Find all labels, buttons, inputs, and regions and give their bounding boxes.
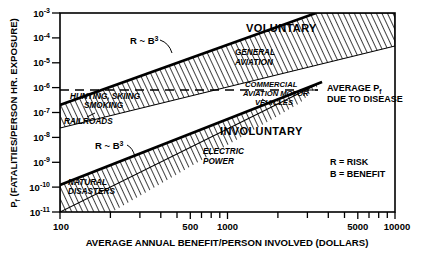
rb3-lower-label: R ~ B3 <box>95 140 124 152</box>
data-bands <box>60 13 395 212</box>
y-tick-label: 10-5 <box>33 57 50 69</box>
x-tick-label: 100 <box>53 221 69 232</box>
disease-label-line1: AVERAGE Pf <box>327 83 382 95</box>
rb3-upper-leader <box>160 40 172 53</box>
electric-label: ELECTRIC <box>203 147 245 156</box>
natural-label: NATURAL <box>68 178 107 187</box>
vehicles-label: VEHICLES <box>255 98 293 107</box>
smoking-label: SMOKING <box>84 101 124 110</box>
risk-benefit-chart-figure: 10-3 10-4 10-5 10-6 10-7 10-8 10-9 10-10… <box>0 0 427 254</box>
commercial-label: COMMERCIAL <box>245 80 298 89</box>
legend-benefit: B = BENEFIT <box>330 169 386 179</box>
y-axis-title-text: Pf (FATALITIES/PERSON HR. EXPOSURE) <box>8 18 21 208</box>
railroads-label: RAILROADS <box>64 117 113 126</box>
aviation-label: AVIATION <box>234 58 274 67</box>
y-tick-label: 10-11 <box>30 206 50 218</box>
x-tick-label: 1000 <box>217 221 238 232</box>
y-tick-label: 10-10 <box>29 181 50 193</box>
y-tick-label: 10-9 <box>33 156 50 168</box>
rb3-upper-label: R ~ B3 <box>130 35 159 47</box>
disasters-label: DISASTERS <box>68 187 115 196</box>
y-axis-ticks <box>52 13 60 212</box>
y-axis-title: Pf (FATALITIES/PERSON HR. EXPOSURE) <box>8 18 21 208</box>
hunting-skiing-label: HUNTING, SKIING <box>70 92 141 101</box>
x-axis-title: AVERAGE ANNUAL BENEFIT/PERSON INVOLVED (… <box>86 237 369 248</box>
y-tick-label: 10-4 <box>33 32 50 44</box>
power-label: POWER <box>203 157 234 166</box>
general-label: GENERAL <box>235 48 275 57</box>
y-tick-label: 10-8 <box>33 131 50 143</box>
chart-svg: 10-3 10-4 10-5 10-6 10-7 10-8 10-9 10-10… <box>0 0 427 254</box>
y-tick-label: 10-7 <box>33 107 50 119</box>
x-axis-ticks <box>60 212 395 219</box>
legend-risk: R = RISK <box>330 157 369 167</box>
aviation-motor-label: AVIATION MOTOR <box>242 89 309 98</box>
voluntary-label: VOLUNTARY <box>246 22 317 34</box>
x-axis-tick-labels: 100 500 1000 5000 10000 <box>53 221 410 232</box>
y-tick-label: 10-3 <box>33 7 50 19</box>
y-tick-label: 10-6 <box>33 82 50 94</box>
x-tick-label: 500 <box>182 221 198 232</box>
voluntary-band <box>60 13 395 128</box>
x-tick-label: 5000 <box>347 221 368 232</box>
y-axis-tick-labels: 10-3 10-4 10-5 10-6 10-7 10-8 10-9 10-10… <box>29 7 50 218</box>
x-axis-title-text: AVERAGE ANNUAL BENEFIT/PERSON INVOLVED (… <box>86 237 369 248</box>
disease-label-line2: DUE TO DISEASE <box>327 94 403 104</box>
involuntary-label: INVOLUNTARY <box>220 125 303 137</box>
x-tick-label: 10000 <box>384 221 410 232</box>
